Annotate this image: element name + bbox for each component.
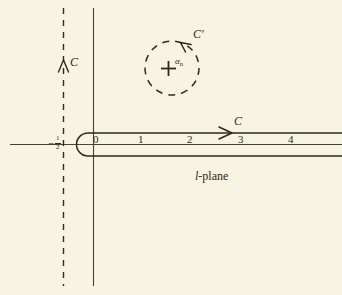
tick-label-negative-one-half: − 1 2 [48, 135, 61, 151]
hairpin-contour-label-C: C [234, 115, 242, 127]
plane-label-suffix: -plane [198, 169, 228, 183]
tick-label-3: 3 [238, 134, 244, 145]
tick-label-2: 2 [187, 134, 193, 145]
fraction-one-half: 1 2 [55, 135, 61, 151]
vertical-contour-label-C: C [70, 56, 78, 68]
tick-label-4: 4 [288, 134, 294, 145]
pole-label-subscript: n [180, 60, 183, 67]
circle-contour-label-C-prime: C′ [193, 28, 204, 40]
fraction-numerator: 1 [55, 135, 61, 142]
l-plane-contour-figure: 0 1 2 3 4 − 1 2 C C C′ αn l-plane [0, 0, 342, 295]
minus-sign: − [48, 138, 54, 149]
pole-cross-icon [161, 61, 176, 76]
plane-label: l-plane [195, 170, 228, 182]
tick-label-0: 0 [93, 134, 99, 145]
fraction-denominator: 2 [55, 144, 61, 151]
pole-label-alpha-n: αn [175, 57, 183, 67]
tick-label-1: 1 [138, 134, 144, 145]
